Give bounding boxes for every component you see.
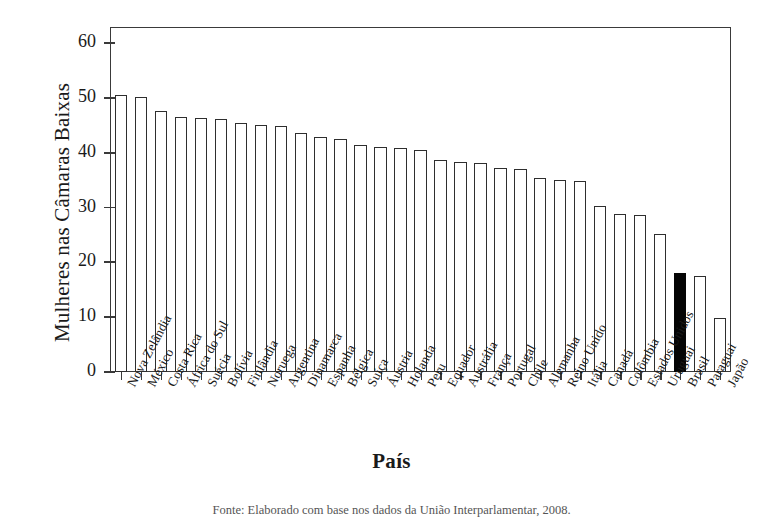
bar bbox=[414, 150, 426, 372]
source-note: Fonte: Elaborado com base nos dados da U… bbox=[0, 503, 783, 518]
x-axis-title: País bbox=[0, 449, 783, 474]
bar bbox=[135, 97, 147, 372]
bar bbox=[175, 117, 187, 372]
bar bbox=[255, 125, 267, 372]
bar bbox=[434, 160, 446, 372]
bar bbox=[314, 137, 326, 372]
bar bbox=[115, 95, 127, 372]
y-tick-label: 10 bbox=[50, 305, 96, 326]
x-axis-tick bbox=[121, 372, 122, 380]
bar bbox=[494, 168, 506, 372]
bar bbox=[454, 162, 466, 372]
bar bbox=[295, 133, 307, 372]
y-tick-label: 40 bbox=[50, 141, 96, 162]
y-tick-label: 20 bbox=[50, 250, 96, 271]
bar bbox=[394, 148, 406, 372]
bars-container bbox=[111, 28, 730, 372]
bar bbox=[354, 145, 366, 372]
bar bbox=[374, 147, 386, 372]
y-tick-label: 50 bbox=[50, 86, 96, 107]
bar bbox=[235, 123, 247, 372]
y-tick-label: 60 bbox=[50, 31, 96, 52]
y-tick-label: 0 bbox=[50, 360, 96, 381]
bar bbox=[534, 178, 546, 372]
y-tick-label: 30 bbox=[50, 196, 96, 217]
bar bbox=[275, 126, 287, 372]
